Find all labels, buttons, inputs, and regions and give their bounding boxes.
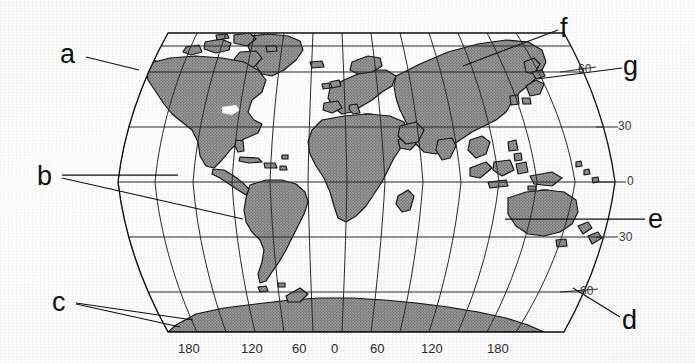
land-caribbean-islet-2 [282,155,288,159]
longitude-tick-60w: 60 [292,342,306,355]
map-body [110,25,625,340]
latitude-tick-60n: 60 [578,63,591,75]
longitude-tick-180e: 180 [487,342,509,355]
latitude-tick-30n: 30 [618,120,631,132]
world-map-figure [0,0,695,363]
land-cuba [239,157,262,163]
land-caribbean-islet-1 [280,166,287,170]
map-label-d[interactable]: d [622,307,637,334]
land-philippines-2 [514,153,522,161]
latitude-tick-0: 0 [627,175,634,187]
land-arctic-islet-2 [266,46,277,52]
land-pacific-islet-3 [576,161,582,167]
land-japan-kyushu [522,98,531,104]
land-falklands [278,283,285,287]
longitude-tick-120w: 120 [241,342,263,355]
land-british-isles [330,80,341,88]
map-label-a[interactable]: a [60,41,75,68]
land-tierra-del-fuego [258,286,268,292]
longitude-tick-0: 0 [331,342,338,355]
latitude-tick-30s: 30 [619,231,632,243]
land-philippines-1 [508,140,518,151]
longitude-tick-120e: 120 [421,342,443,355]
map-label-g[interactable]: g [623,53,638,80]
map-label-f[interactable]: f [560,15,568,42]
map-label-c[interactable]: c [52,289,66,316]
land-indonesia-islet-1 [528,186,536,190]
land-pacific-islet-2 [584,169,590,175]
latitude-tick-60s: 60 [580,285,593,297]
longitude-tick-60e: 60 [370,342,384,355]
map-label-b[interactable]: b [37,163,52,190]
land-sulawesi [516,162,528,174]
longitude-tick-180w: 180 [178,342,200,355]
map-label-e[interactable]: e [648,206,663,233]
land-tasmania [556,239,567,247]
land-ireland [322,83,330,89]
